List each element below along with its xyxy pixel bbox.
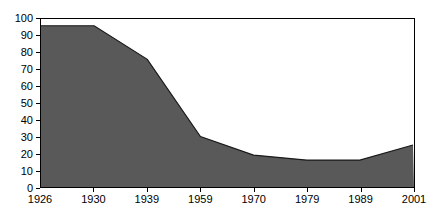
x-axis-tick-label: 1939 [135, 194, 159, 205]
x-axis-tick-label: 1989 [348, 194, 372, 205]
x-axis-tick-label: 1979 [295, 194, 319, 205]
x-axis-tick-label: 1926 [28, 194, 52, 205]
x-axis-tick-mark [200, 188, 201, 192]
x-axis-tick-mark [307, 188, 308, 192]
x-axis-tick-mark [254, 188, 255, 192]
x-axis-tick-mark [93, 188, 94, 192]
x-axis-tick-label: 1930 [81, 194, 105, 205]
x-axis-tick-mark [414, 188, 415, 192]
area-chart: 0102030405060708090100 19261930193919591… [0, 0, 440, 222]
x-axis-tick-label: 2001 [402, 194, 426, 205]
x-axis-tick-mark [361, 188, 362, 192]
x-axis: 19261930193919591970197919892001 [0, 0, 440, 222]
x-axis-tick-label: 1970 [241, 194, 265, 205]
x-axis-tick-label: 1959 [188, 194, 212, 205]
x-axis-tick-mark [147, 188, 148, 192]
